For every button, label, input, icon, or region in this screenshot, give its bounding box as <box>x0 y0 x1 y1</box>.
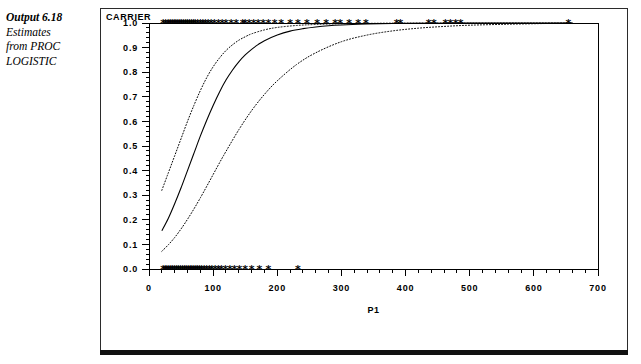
y-tick-label: 0.8 <box>123 67 138 77</box>
curve-upper-confidence-limit <box>162 23 573 190</box>
curve-lower-confidence-limit <box>162 23 573 251</box>
observed-carrier-negative: * <box>256 263 262 276</box>
observed-carrier-negative: * <box>249 263 255 276</box>
y-tick-label: 0.4 <box>123 166 138 176</box>
chart-svg: CARRIERP1 0100200300400500600700 0.00.10… <box>101 9 629 353</box>
x-tick-label: 600 <box>525 283 542 293</box>
observed-carrier-positive: * <box>346 17 352 30</box>
x-tick-label: 700 <box>589 283 606 293</box>
y-tick-label: 0.1 <box>123 240 138 250</box>
observed-carrier-positive: * <box>295 17 301 30</box>
x-tick-label: 500 <box>461 283 478 293</box>
plot-frame <box>149 23 598 269</box>
figure-box: CARRIERP1 0100200300400500600700 0.00.10… <box>100 8 628 352</box>
plot-border <box>149 23 598 269</box>
x-tick-label: 0 <box>146 283 152 293</box>
observed-carrier-positive: * <box>304 17 310 30</box>
observed-carrier-positive: * <box>323 17 329 30</box>
x-tick-label: 400 <box>397 283 414 293</box>
y-tick-label: 0.9 <box>123 43 138 53</box>
observed-carrier-positive: * <box>265 17 271 30</box>
curve-predicted-probability <box>162 23 573 231</box>
observed-carrier-positive: * <box>363 17 369 30</box>
x-axis-tick-labels: 0100200300400500600700 <box>146 283 607 293</box>
observed-carrier-negative: * <box>265 263 271 276</box>
observed-carrier-positive: * <box>337 17 343 30</box>
x-tick-label: 200 <box>269 283 286 293</box>
bottom-rule <box>100 350 628 355</box>
observed-carrier-positive: * <box>314 17 320 30</box>
y-tick-label: 1.0 <box>123 18 138 28</box>
y-tick-label: 0.2 <box>123 215 138 225</box>
x-axis-title: P1 <box>367 305 379 315</box>
observed-carrier-positive: * <box>566 17 572 30</box>
y-tick-label: 0.0 <box>123 264 138 274</box>
observed-carrier-positive: * <box>355 17 361 30</box>
y-tick-label: 0.7 <box>123 92 138 102</box>
observed-carrier-positive: * <box>287 17 293 30</box>
caption-line-2: from PROC <box>6 39 96 54</box>
caption-line-1: Estimates <box>6 25 96 40</box>
observed-carrier-positive: * <box>278 17 284 30</box>
observed-carrier-negative: * <box>295 263 301 276</box>
observed-carrier-positive: * <box>272 17 278 30</box>
x-tick-label: 300 <box>333 283 350 293</box>
y-tick-label: 0.6 <box>123 117 138 127</box>
y-axis-ticks <box>142 23 149 269</box>
observed-carrier-positive: * <box>458 17 464 30</box>
caption-line-3: LOGISTIC <box>6 54 96 69</box>
logistic-plot: CARRIERP1 0100200300400500600700 0.00.10… <box>101 9 629 353</box>
y-tick-label: 0.5 <box>123 141 138 151</box>
y-axis-tick-labels: 0.00.10.20.30.40.50.60.70.80.91.0 <box>123 18 138 274</box>
observed-carrier-positive: * <box>431 17 437 30</box>
observed-carrier-negative: * <box>242 263 248 276</box>
fitted-curves <box>162 23 573 251</box>
output-caption: Output 6.18 Estimates from PROC LOGISTIC <box>6 10 96 68</box>
x-tick-label: 100 <box>204 283 221 293</box>
y-tick-label: 0.3 <box>123 190 138 200</box>
observed-data-points: ****************************************… <box>160 17 571 276</box>
observed-carrier-positive: * <box>233 17 239 30</box>
observed-carrier-positive: * <box>398 17 404 30</box>
caption-title: Output 6.18 <box>6 10 96 25</box>
